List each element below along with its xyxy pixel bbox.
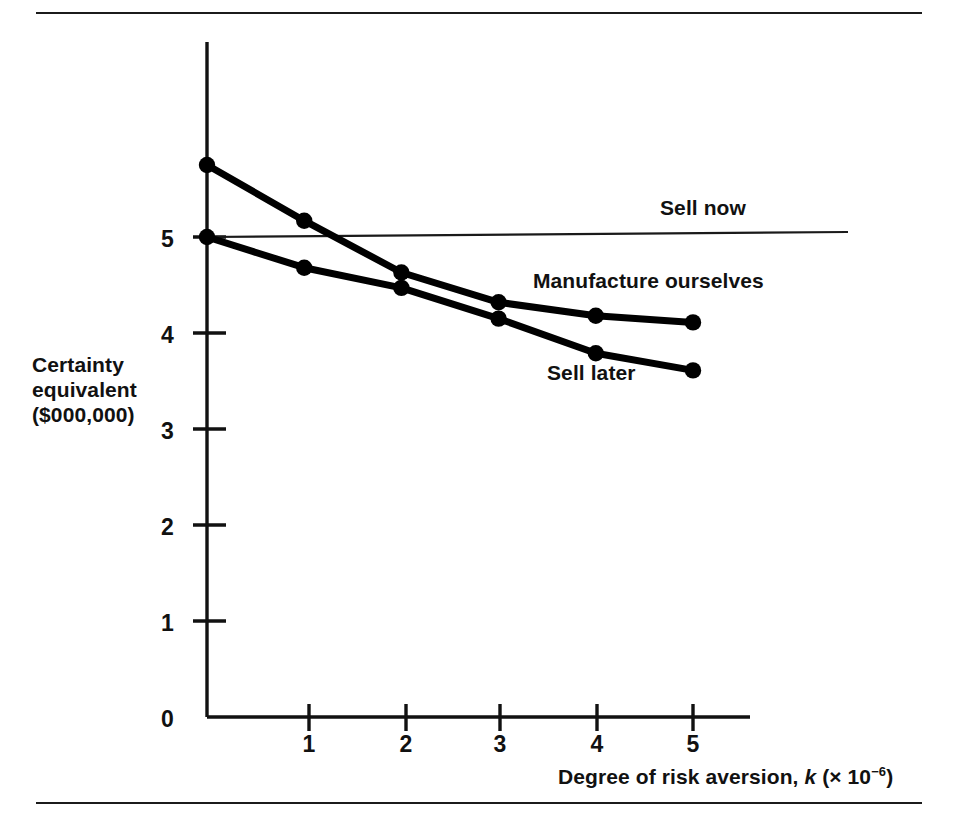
y-axis-title-line-2: equivalent xyxy=(32,378,137,401)
series-label-manufacture-ourselves: Manufacture ourselves xyxy=(533,269,764,293)
y-tick-label-5: 5 xyxy=(148,226,174,253)
y-axis-title-line-1: Certainty xyxy=(32,353,124,376)
data-point-marker xyxy=(296,260,312,276)
data-point-marker xyxy=(199,157,215,173)
data-point-marker xyxy=(685,314,701,330)
data-point-marker xyxy=(393,264,409,280)
y-tick-label-3: 3 xyxy=(148,418,174,445)
data-point-marker xyxy=(296,213,312,229)
data-point-marker xyxy=(490,294,506,310)
x-axis-title-mid: (× 10 xyxy=(816,765,871,788)
data-point-marker xyxy=(685,362,701,378)
x-axis-title-variable: k xyxy=(804,765,816,788)
series-label-sell-later: Sell later xyxy=(547,361,636,385)
x-axis-title: Degree of risk aversion, k (× 10−6) xyxy=(558,759,893,789)
series-line-sell-later xyxy=(207,237,693,370)
x-tick-label-3: 3 xyxy=(487,731,513,758)
y-tick-label-2: 2 xyxy=(148,514,174,541)
x-tick-label-2: 2 xyxy=(393,731,419,758)
chart-plot-area xyxy=(0,0,956,835)
figure-container: 0 1 2 3 4 5 1 2 3 4 5 Certaintyequivalen… xyxy=(0,0,956,835)
data-point-marker xyxy=(588,345,604,361)
x-axis-title-prefix: Degree of risk aversion, xyxy=(558,765,804,788)
x-axis-title-exponent: −6 xyxy=(871,764,886,779)
y-axis-title-line-3: ($000,000) xyxy=(32,403,135,426)
y-tick-label-1: 1 xyxy=(148,610,174,637)
series-label-sell-now: Sell now xyxy=(660,196,746,220)
x-tick-label-4: 4 xyxy=(584,731,610,758)
x-axis-title-suffix: ) xyxy=(886,765,893,788)
y-axis-title: Certaintyequivalent($000,000) xyxy=(32,352,137,427)
x-tick-label-5: 5 xyxy=(680,731,706,758)
y-axis-ticks xyxy=(193,237,226,621)
series-line-manufacture-ourselves xyxy=(207,165,693,322)
series-line-sell-now xyxy=(207,232,848,237)
y-tick-label-4: 4 xyxy=(148,322,174,349)
y-tick-label-0: 0 xyxy=(148,706,174,733)
data-point-marker xyxy=(199,229,215,245)
data-point-marker xyxy=(588,308,604,324)
x-tick-label-1: 1 xyxy=(296,731,322,758)
data-point-marker xyxy=(393,280,409,296)
data-point-marker xyxy=(490,310,506,326)
